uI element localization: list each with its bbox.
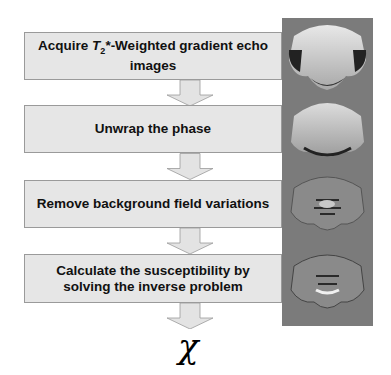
step-acquire-label: Acquire T2*-Weighted gradient echo image… (25, 38, 281, 75)
step-unwrap-label: Unwrap the phase (95, 121, 211, 137)
local-field-image (286, 166, 369, 238)
down-arrow-icon (165, 80, 215, 106)
susceptibility-map-image (286, 244, 369, 316)
step-background-box: Remove background field variations (24, 180, 282, 228)
step-background-label: Remove background field variations (37, 196, 270, 212)
step-acquire-box: Acquire T2*-Weighted gradient echo image… (24, 32, 282, 80)
wrapped-phase-image (286, 20, 369, 92)
step-unwrap-box: Unwrap the phase (24, 105, 282, 153)
mri-image-panel (282, 18, 373, 326)
susceptibility-symbol: χ (178, 326, 199, 366)
unwrapped-phase-image (286, 92, 369, 164)
step-calculate-label: Calculate the susceptibility by solving … (55, 263, 251, 295)
down-arrow-icon (165, 153, 215, 180)
down-arrow-icon (165, 228, 215, 254)
step-calculate-box: Calculate the susceptibility by solving … (24, 254, 282, 303)
